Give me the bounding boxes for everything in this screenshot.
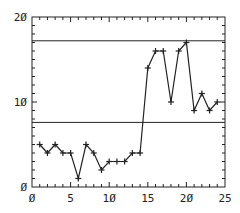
x-tick-label: 25 [218,192,231,205]
x-tick-label: 15 [141,192,154,205]
x-tick-label: 5 [67,192,74,205]
x-tick-label: Ø [29,192,36,205]
y-tick-label: 2Ø [14,11,28,24]
axis-ticks [32,17,225,187]
plot-border [32,17,225,187]
y-tick-label: 1Ø [14,96,28,109]
line-chart: Ø51Ø152Ø25Ø1Ø2Ø [0,0,240,213]
y-tick-label: Ø [20,181,27,194]
tick-labels: Ø51Ø152Ø25Ø1Ø2Ø [14,11,232,205]
data-series [37,40,221,182]
x-tick-label: 2Ø [180,192,194,205]
plot-frame [32,17,225,187]
x-tick-label: 1Ø [103,192,117,205]
series-line [40,43,218,179]
